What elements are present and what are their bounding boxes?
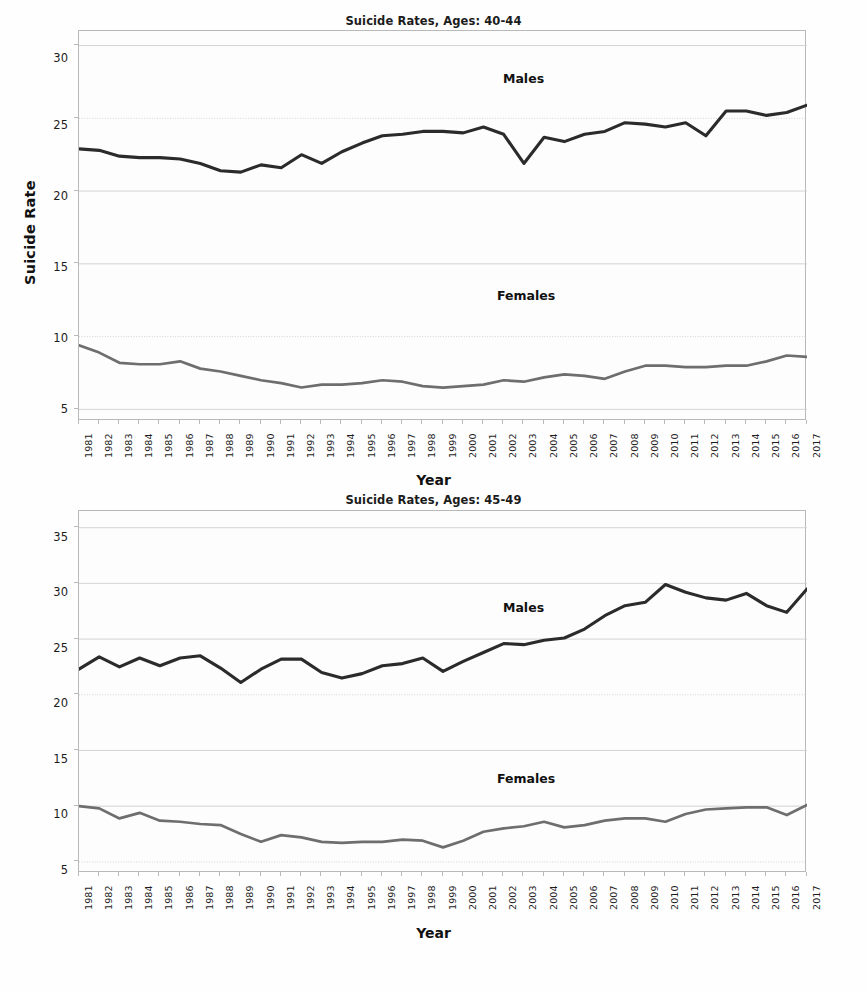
chart-title-bottom: Suicide Rates, Ages: 45-49 <box>0 493 867 507</box>
x-tick-mark <box>300 872 301 876</box>
x-tick-label-2014: 2014 <box>750 433 761 458</box>
x-tick-label-1988: 1988 <box>224 433 235 458</box>
x-tick-label-2001: 2001 <box>487 885 498 910</box>
x-tick-label-1982: 1982 <box>103 433 114 458</box>
y-tick-mark <box>74 582 78 583</box>
x-tick-label-1997: 1997 <box>406 885 417 910</box>
x-tick-label-1982: 1982 <box>103 885 114 910</box>
x-tick-label-1986: 1986 <box>184 885 195 910</box>
x-tick-mark <box>219 420 220 424</box>
x-tick-mark <box>624 872 625 876</box>
x-tick-label-2007: 2007 <box>608 433 619 458</box>
x-tick-label-1994: 1994 <box>345 885 356 910</box>
x-tick-mark <box>78 420 79 424</box>
x-tick-label-2016: 2016 <box>790 885 801 910</box>
y-tick-mark <box>74 805 78 806</box>
x-tick-mark <box>785 420 786 424</box>
y-tick-bot-20: 20 <box>30 696 68 710</box>
y-tick-top-25: 25 <box>30 118 68 132</box>
series-annotation-males-bottom: Males <box>503 600 544 615</box>
x-tick-mark <box>644 872 645 876</box>
x-tick-label-1992: 1992 <box>305 433 316 458</box>
x-tick-mark <box>239 872 240 876</box>
x-tick-label-2008: 2008 <box>629 885 640 910</box>
x-tick-label-1989: 1989 <box>244 885 255 910</box>
x-tick-mark <box>421 420 422 424</box>
x-tick-mark <box>138 872 139 876</box>
x-tick-mark <box>381 420 382 424</box>
x-tick-mark <box>603 872 604 876</box>
x-tick-label-1997: 1997 <box>406 433 417 458</box>
x-tick-label-2001: 2001 <box>487 433 498 458</box>
x-tick-mark <box>644 420 645 424</box>
x-tick-mark <box>98 872 99 876</box>
x-tick-mark <box>361 872 362 876</box>
x-tick-mark <box>138 420 139 424</box>
x-tick-mark <box>704 420 705 424</box>
x-tick-label-2015: 2015 <box>770 885 781 910</box>
y-tick-mark <box>74 190 78 191</box>
x-tick-mark <box>725 872 726 876</box>
x-tick-mark <box>502 872 503 876</box>
x-tick-mark <box>260 872 261 876</box>
chart-panel-45-49: Suicide Rates, Ages: 45-49 Suicide Rate … <box>0 480 867 992</box>
x-tick-mark <box>522 420 523 424</box>
x-tick-label-2017: 2017 <box>811 885 822 910</box>
y-tick-bot-10: 10 <box>30 807 68 821</box>
x-tick-label-2007: 2007 <box>608 885 619 910</box>
x-tick-mark <box>704 872 705 876</box>
y-tick-top-30: 30 <box>30 51 68 65</box>
x-tick-label-1981: 1981 <box>83 885 94 910</box>
x-tick-mark <box>320 872 321 876</box>
x-tick-label-1995: 1995 <box>366 433 377 458</box>
x-tick-label-1986: 1986 <box>184 433 195 458</box>
x-tick-label-2015: 2015 <box>770 433 781 458</box>
x-tick-label-1994: 1994 <box>345 433 356 458</box>
x-tick-mark <box>765 420 766 424</box>
x-tick-label-2006: 2006 <box>588 433 599 458</box>
x-tick-label-1984: 1984 <box>143 433 154 458</box>
x-tick-mark <box>442 420 443 424</box>
x-tick-mark <box>401 872 402 876</box>
x-tick-label-1993: 1993 <box>325 433 336 458</box>
x-tick-label-2004: 2004 <box>548 885 559 910</box>
x-tick-mark <box>179 420 180 424</box>
x-tick-mark <box>745 420 746 424</box>
y-tick-mark <box>74 44 78 45</box>
y-tick-mark <box>74 117 78 118</box>
y-tick-mark <box>74 749 78 750</box>
chart-title-top: Suicide Rates, Ages: 40-44 <box>0 14 867 28</box>
series-annotation-females-bottom: Females <box>497 771 555 786</box>
x-tick-label-2004: 2004 <box>548 433 559 458</box>
figure-page: Suicide Rates, Ages: 40-44 Suicide Rate … <box>0 0 867 992</box>
x-tick-mark <box>421 872 422 876</box>
x-tick-label-2017: 2017 <box>811 433 822 458</box>
x-tick-mark <box>78 872 79 876</box>
x-tick-label-2009: 2009 <box>649 885 660 910</box>
y-tick-bot-30: 30 <box>30 585 68 599</box>
x-tick-mark <box>806 420 807 424</box>
x-tick-label-2010: 2010 <box>669 433 680 458</box>
x-tick-mark <box>199 872 200 876</box>
x-tick-mark <box>280 420 281 424</box>
y-tick-top-10: 10 <box>30 331 68 345</box>
x-tick-label-1984: 1984 <box>143 885 154 910</box>
x-tick-label-2010: 2010 <box>669 885 680 910</box>
x-tick-label-1987: 1987 <box>204 885 215 910</box>
x-tick-label-2006: 2006 <box>588 885 599 910</box>
x-tick-label-1983: 1983 <box>123 885 134 910</box>
x-tick-label-1992: 1992 <box>305 885 316 910</box>
x-tick-mark <box>340 872 341 876</box>
x-tick-label-1999: 1999 <box>447 433 458 458</box>
y-tick-top-20: 20 <box>30 189 68 203</box>
y-tick-mark <box>74 638 78 639</box>
plot-area-top <box>78 30 806 420</box>
x-tick-label-1981: 1981 <box>83 433 94 458</box>
x-tick-label-2002: 2002 <box>507 433 518 458</box>
x-tick-mark <box>745 872 746 876</box>
x-tick-label-1985: 1985 <box>163 433 174 458</box>
x-tick-mark <box>664 872 665 876</box>
x-tick-label-2012: 2012 <box>709 885 720 910</box>
x-tick-mark <box>684 420 685 424</box>
x-tick-mark <box>118 420 119 424</box>
